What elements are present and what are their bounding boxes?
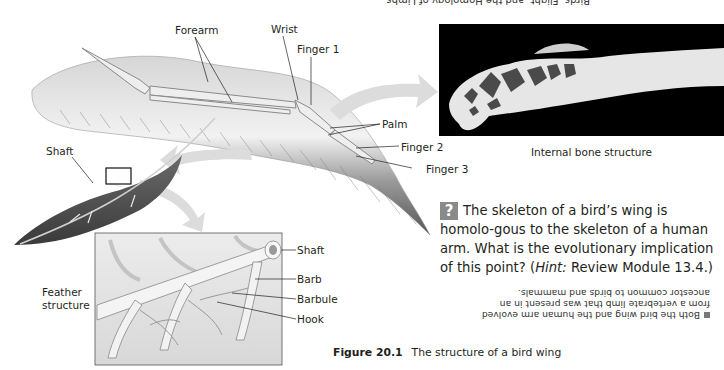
label-barb: Barb [297,273,322,285]
figure-caption: Figure 20.1The structure of a bird wing [333,346,561,359]
question-hint-label: Hint: [535,260,567,275]
figure-title: The structure of a bird wing [412,346,562,359]
review-question: ? The skeleton of a bird’s wing is homol… [440,201,724,277]
figure-number: Figure 20.1 [333,346,403,359]
feather-zoom-box [106,168,131,184]
feather-structure-title: Feather structure [42,286,90,312]
arrow-to-bone-photo [330,74,438,120]
answer-text: Both the bird wing and the human arm evo… [482,288,710,321]
label-forearm: Forearm [175,24,218,36]
question-mark-icon: ? [440,202,458,220]
feather-structure-title-line1: Feather [42,286,90,299]
question-hint-text: Review Module 13.4.) [567,260,713,275]
upside-down-answer: Both the bird wing and the human arm evo… [468,288,710,321]
feather-structure-box [95,233,282,365]
internal-bone-photo [439,24,724,136]
bullet-square-icon [704,312,710,318]
label-barbule: Barbule [297,293,338,305]
bone-photo-caption: Internal bone structure [531,146,652,158]
label-palm: Palm [382,118,407,130]
label-wrist: Wrist [271,23,298,35]
label-finger-1: Finger 1 [297,43,339,55]
label-structure-shaft: Shaft [297,244,324,256]
feather-structure-title-line2: structure [42,299,90,312]
label-hook: Hook [297,313,324,325]
label-feather-shaft: Shaft [46,145,73,157]
label-finger-3: Finger 3 [426,163,468,175]
label-finger-2: Finger 2 [401,141,443,153]
